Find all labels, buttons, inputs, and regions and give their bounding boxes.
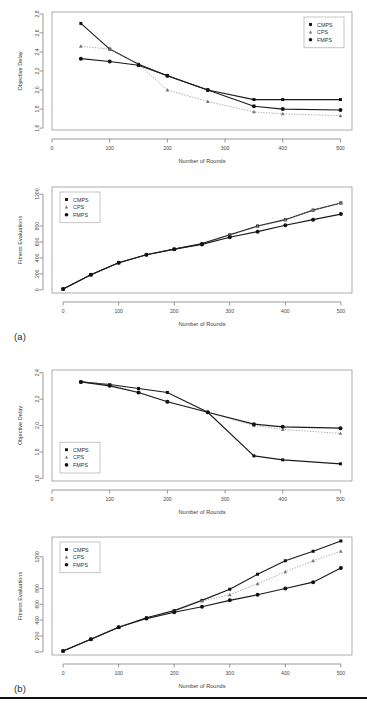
data-point-marker <box>65 548 68 551</box>
data-point-marker <box>65 448 68 451</box>
legend-label: CPS <box>73 204 84 210</box>
data-point-marker <box>117 261 121 265</box>
data-point-marker <box>89 273 93 277</box>
data-point-marker <box>339 98 342 101</box>
data-point-marker <box>281 107 285 111</box>
data-point-marker <box>284 559 287 562</box>
data-point-marker <box>79 57 83 61</box>
data-point-marker <box>165 400 169 404</box>
data-point-marker <box>311 559 315 562</box>
data-point-marker <box>252 454 255 457</box>
series-line <box>81 23 341 99</box>
x-tick-label: 0 <box>51 496 54 502</box>
data-point-marker <box>283 570 287 573</box>
x-tick-label: 300 <box>226 670 235 676</box>
legend-label: CMPS <box>317 22 333 28</box>
y-tick-label: 600 <box>34 238 40 247</box>
chart-legend: CMPSCPSFMPS <box>304 17 344 48</box>
data-point-marker <box>283 586 287 590</box>
data-point-marker <box>137 63 141 67</box>
data-point-marker <box>256 230 260 234</box>
data-point-marker <box>65 463 69 467</box>
data-point-marker <box>339 549 343 552</box>
y-tick-label: 2.4 <box>34 369 40 376</box>
data-point-marker <box>339 539 342 542</box>
y-axis: 1.61.82.02.22.4Objective Delay <box>17 369 43 482</box>
data-point-marker <box>79 44 83 47</box>
chart-legend: CMPSCPSFMPS <box>60 542 100 573</box>
y-tick-label: 400 <box>34 254 40 263</box>
y-axis: 02004006008001200Fitness Evaluations <box>17 551 43 653</box>
series-line <box>81 59 341 110</box>
series-fmps <box>61 212 343 291</box>
y-axis-title: Fitness Evaluations <box>17 216 23 265</box>
x-tick-label: 0 <box>62 670 65 676</box>
legend-label: FMPS <box>73 212 88 218</box>
y-tick-label: 200 <box>34 632 40 641</box>
x-axis-title: Number of Rounds <box>179 683 226 689</box>
data-point-marker <box>108 59 112 63</box>
chart-b-delay: 0100200300400500Number of Rounds1.61.82.… <box>0 358 367 523</box>
data-point-marker <box>338 108 342 112</box>
panel-letter-a: (a) <box>14 331 26 342</box>
data-point-marker <box>65 213 69 217</box>
data-point-marker <box>89 637 93 641</box>
x-axis: 0100200300400500Number of Rounds <box>51 139 345 164</box>
y-tick-label: 2.0 <box>34 422 40 429</box>
figure-container: 0100200300400500Number of Rounds1.61.82.… <box>0 0 367 710</box>
data-point-marker <box>339 462 342 465</box>
x-tick-label: 100 <box>105 145 114 151</box>
y-tick-label: 2.2 <box>34 67 40 74</box>
data-point-marker <box>61 649 65 653</box>
data-point-marker <box>200 605 204 609</box>
data-point-marker <box>79 380 83 384</box>
data-point-marker <box>206 88 210 92</box>
caption-divider <box>0 697 367 699</box>
x-tick-label: 300 <box>221 496 230 502</box>
data-point-marker <box>256 573 259 576</box>
legend-label: FMPS <box>73 562 88 568</box>
data-point-marker <box>61 287 65 291</box>
y-tick-label: 600 <box>34 600 40 609</box>
data-point-marker <box>311 580 315 584</box>
x-axis: 0100200300400500Number of Rounds <box>62 302 346 327</box>
x-tick-label: 0 <box>62 308 65 314</box>
series-fmps <box>79 57 343 112</box>
data-point-marker <box>206 410 210 414</box>
legend-label: FMPS <box>317 37 332 43</box>
x-tick-label: 200 <box>163 145 172 151</box>
y-tick-label: 0 <box>34 288 40 291</box>
series-line <box>81 382 341 434</box>
data-point-marker <box>166 391 169 394</box>
y-tick-label: 1.6 <box>34 475 40 482</box>
data-point-marker <box>228 235 232 239</box>
y-axis-title: Objective Delay <box>17 51 23 90</box>
chart-panel-b-delay: 0100200300400500Number of Rounds1.61.82.… <box>0 358 367 523</box>
chart-a-delay: 0100200300400500Number of Rounds1.61.82.… <box>0 0 367 172</box>
x-tick-label: 0 <box>51 145 54 151</box>
legend-label: CPS <box>317 29 328 35</box>
x-tick-label: 200 <box>163 496 172 502</box>
data-point-marker <box>172 610 176 614</box>
legend-label: FMPS <box>73 462 88 468</box>
data-point-marker <box>144 253 148 257</box>
y-tick-label: 1200 <box>34 551 40 562</box>
data-point-marker <box>137 387 140 390</box>
panel-letter-b: (b) <box>14 683 26 694</box>
data-point-marker <box>312 550 315 553</box>
x-tick-label: 500 <box>336 496 345 502</box>
data-point-marker <box>200 242 204 246</box>
data-point-marker <box>283 223 287 227</box>
y-tick-label: 2.8 <box>34 10 40 17</box>
data-point-marker <box>281 458 284 461</box>
series-cps <box>79 44 342 117</box>
y-tick-label: 1.8 <box>34 105 40 112</box>
data-point-marker <box>144 617 148 621</box>
y-tick-label: 800 <box>34 222 40 231</box>
x-axis: 0100200300400500Number of Rounds <box>62 664 346 689</box>
series-line <box>81 46 341 115</box>
data-point-marker <box>252 98 255 101</box>
data-point-marker <box>65 198 68 201</box>
data-point-marker <box>309 23 312 26</box>
x-axis-title: Number of Rounds <box>179 509 226 515</box>
